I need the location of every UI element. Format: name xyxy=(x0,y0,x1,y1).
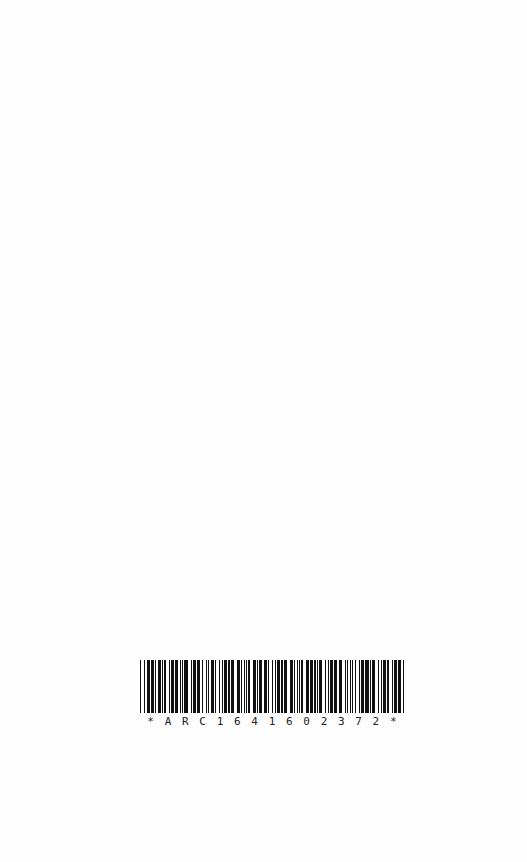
barcode-caption-char: 1 xyxy=(263,715,280,728)
barcode-caption-char: 3 xyxy=(333,715,350,728)
barcode-caption-char: 6 xyxy=(281,715,298,728)
barcode-caption-char: * xyxy=(385,715,402,728)
barcode-caption-char: 7 xyxy=(350,715,367,728)
barcode-caption-char: R xyxy=(177,715,194,728)
barcode-caption-char: A xyxy=(159,715,176,728)
barcode-caption-char: * xyxy=(142,715,159,728)
barcode-caption-char: 2 xyxy=(315,715,332,728)
barcode-bar xyxy=(403,660,404,713)
barcode-bars xyxy=(140,660,404,713)
scanned-page: *ARC1641602372* xyxy=(0,0,527,862)
barcode-caption: *ARC1641602372* xyxy=(140,715,404,728)
barcode-caption-char: 2 xyxy=(367,715,384,728)
barcode-caption-char: 0 xyxy=(298,715,315,728)
barcode: *ARC1641602372* xyxy=(140,660,404,728)
barcode-caption-char: 6 xyxy=(229,715,246,728)
barcode-caption-char: C xyxy=(194,715,211,728)
barcode-caption-char: 1 xyxy=(211,715,228,728)
barcode-caption-char: 4 xyxy=(246,715,263,728)
